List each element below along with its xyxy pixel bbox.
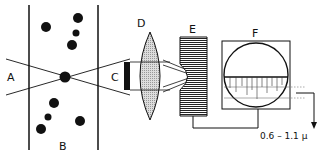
label-c: C (111, 71, 119, 84)
label-d: D (137, 17, 145, 30)
label-e: E (189, 23, 196, 36)
label-b: B (59, 140, 67, 153)
label-wavelength-range: 0.6 – 1.1 μ (260, 131, 308, 141)
cells (36, 13, 85, 134)
output-arrow (296, 93, 314, 124)
component-d-lens (140, 32, 160, 120)
component-f-screen (224, 43, 288, 107)
component-e (180, 37, 207, 116)
diagram: A B C D E F 0.6 – 1.1 μ (0, 0, 322, 158)
label-f: F (252, 27, 258, 40)
component-c (124, 62, 130, 90)
label-a: A (7, 71, 15, 84)
